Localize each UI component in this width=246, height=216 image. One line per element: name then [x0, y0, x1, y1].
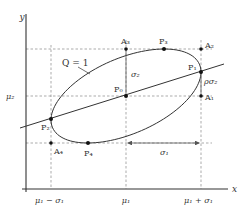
- tick-mu1: μ₁: [122, 196, 130, 205]
- label-a1: A₁: [204, 93, 214, 102]
- label-p2: P₂: [41, 123, 50, 132]
- point-a3: [124, 47, 128, 51]
- label-p1: P₁: [188, 63, 197, 72]
- point-a1: [199, 94, 203, 98]
- label-rho-sigma2: ρσ₂: [203, 77, 217, 86]
- x-axis-label: x: [232, 184, 237, 194]
- guide-lines: [26, 40, 212, 189]
- label-p4: P₄: [84, 149, 93, 158]
- curve-label: Q = 1: [62, 58, 88, 68]
- label-p3: P₃: [159, 37, 168, 46]
- point-p3: [162, 47, 166, 51]
- label-p0: P₀: [114, 85, 123, 94]
- point-p1: [199, 70, 203, 74]
- label-a3: A₃: [120, 37, 130, 46]
- label-a4: A₄: [53, 147, 63, 156]
- point-p4: [86, 141, 90, 145]
- point-p2: [49, 117, 53, 121]
- ellipse-diagram: y x μ₁ − σ₁ μ₁ μ₁ + σ₁ μ₂ Q = 1 P₀ P₁ P₂…: [0, 0, 246, 216]
- label-sigma2: σ₂: [131, 70, 140, 79]
- tick-mu1-plus-sigma1: μ₁ + σ₁: [184, 196, 213, 205]
- point-p0: [124, 94, 128, 98]
- label-a2: A₂: [204, 41, 214, 50]
- tick-mu2: μ₂: [6, 92, 14, 101]
- point-a4: [49, 141, 53, 145]
- y-axis-label: y: [18, 12, 25, 22]
- curve-label-pointer: [78, 67, 90, 74]
- point-a2: [199, 47, 203, 51]
- tick-mu1-minus-sigma1: μ₁ − σ₁: [35, 196, 64, 205]
- label-sigma1: σ₁: [160, 148, 169, 157]
